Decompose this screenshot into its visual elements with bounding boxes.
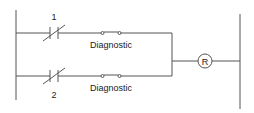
rung-2 xyxy=(16,68,172,84)
coil-label: R xyxy=(202,57,209,67)
switch-2-label: Diagnostic xyxy=(90,83,133,93)
no-switch-1-icon xyxy=(101,32,121,35)
ladder-diagram: 1 Diagnostic 2 Diagnostic R xyxy=(0,0,254,113)
rung-1 xyxy=(16,25,172,41)
no-switch-2-icon xyxy=(101,75,121,78)
contact-2-label: 2 xyxy=(51,90,56,100)
contact-1-label: 1 xyxy=(51,12,56,22)
switch-1-label: Diagnostic xyxy=(90,40,133,50)
